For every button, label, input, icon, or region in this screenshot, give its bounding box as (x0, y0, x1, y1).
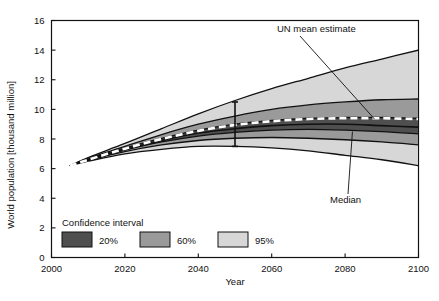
x-axis-title: Year (225, 276, 244, 287)
legend-label: 20% (99, 235, 119, 246)
y-tick-label: 6 (39, 163, 44, 174)
legend-swatch (140, 232, 170, 247)
y-tick-label: 2 (39, 222, 44, 233)
y-tick-label: 16 (34, 15, 45, 26)
y-tick-label: 10 (34, 104, 45, 115)
x-tick-label: 2060 (261, 263, 282, 274)
legend-label: 95% (255, 235, 275, 246)
legend-swatch (62, 232, 92, 247)
y-axis-title: World population [thousand million] (5, 81, 16, 229)
population-projection-chart: UN mean estimate Median 0246810121416 20… (0, 0, 439, 301)
x-tick-label: 2100 (408, 263, 429, 274)
chart-canvas: UN mean estimate Median 0246810121416 20… (0, 0, 439, 301)
y-tick-label: 8 (39, 134, 44, 145)
x-tick-label: 2020 (114, 263, 135, 274)
legend-title: Confidence interval (62, 217, 143, 228)
y-tick-label: 4 (39, 193, 44, 204)
y-tick-label: 14 (34, 45, 45, 56)
x-tick-label: 2080 (335, 263, 356, 274)
y-tick-label: 0 (39, 252, 44, 263)
y-tick-label: 12 (34, 74, 45, 85)
x-tick-label: 2000 (41, 263, 62, 274)
un-mean-estimate-label: UN mean estimate (277, 23, 356, 34)
x-tick-label: 2040 (188, 263, 209, 274)
median-label: Median (330, 194, 361, 205)
legend-swatch (218, 232, 248, 247)
legend-label: 60% (177, 235, 197, 246)
